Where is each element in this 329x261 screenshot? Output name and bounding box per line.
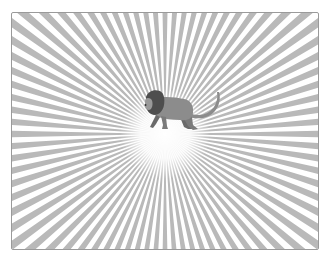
sunburst-background: [12, 13, 318, 249]
lion-nose: [145, 104, 147, 106]
image-frame: lion walking: [11, 12, 319, 250]
lion-face: [145, 98, 153, 110]
